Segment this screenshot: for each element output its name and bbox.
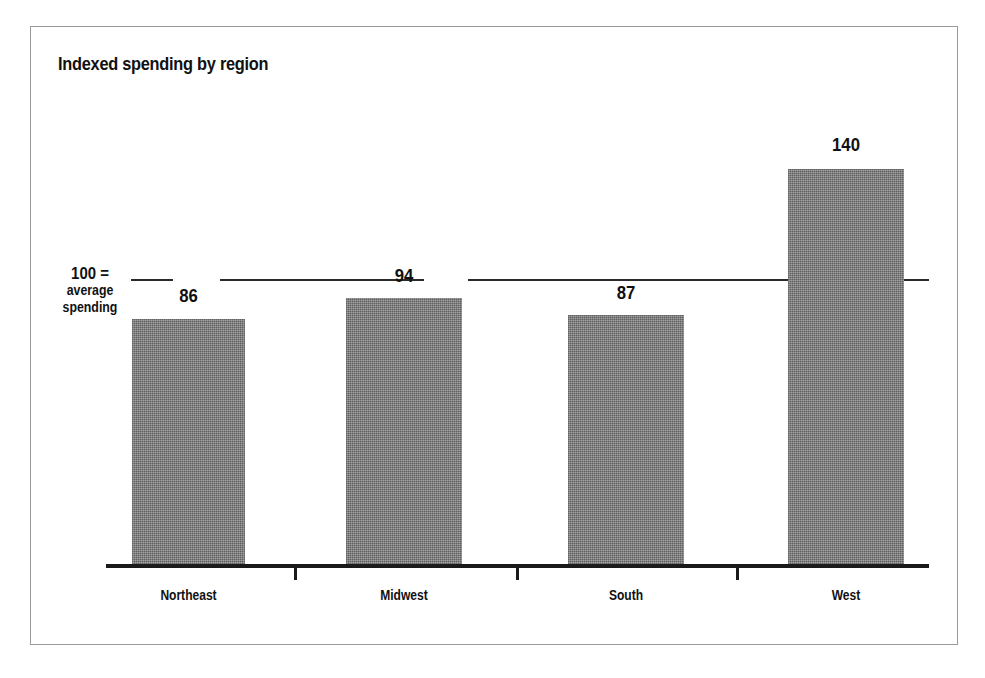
bar-category-northeast: Northeast (140, 587, 237, 603)
axis-tick (736, 568, 739, 580)
bar-northeast[interactable] (132, 319, 245, 564)
reference-line-segment (131, 279, 173, 281)
bar-value-west: 140 (795, 134, 897, 156)
reference-line-caption-1: average (54, 282, 126, 299)
chart-frame: Indexed spending by region 100 = average… (30, 26, 958, 645)
bar-category-west: West (796, 587, 896, 603)
reference-line-label: 100 = average spending (54, 265, 126, 316)
bar-west[interactable] (788, 169, 904, 564)
bar-value-midwest: 94 (353, 265, 455, 287)
bar-category-midwest: Midwest (354, 587, 454, 603)
bar-category-south: South (576, 587, 676, 603)
bar-value-northeast: 86 (139, 285, 238, 307)
axis-tick (294, 568, 297, 580)
axis-tick (516, 568, 519, 580)
plot-area: 100 = average spending 86 Northeast 94 M… (31, 27, 957, 644)
reference-line-caption-2: spending (54, 299, 126, 316)
bar-south[interactable] (568, 315, 684, 564)
bar-midwest[interactable] (346, 298, 462, 564)
bar-value-south: 87 (575, 282, 677, 304)
reference-line-value: 100 = (54, 265, 126, 282)
